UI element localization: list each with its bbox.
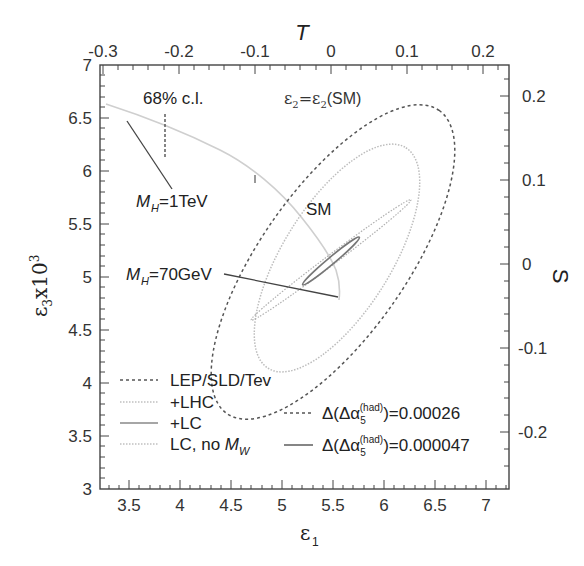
y-tick-labels: 3 3.5 4 4.5 5 5.5 6 6.5 7	[68, 56, 92, 499]
top-tick-label: -0.3	[88, 42, 117, 61]
legend-label: +LHC	[170, 393, 214, 412]
lhc-ellipse	[222, 119, 451, 397]
eps2-annotation: ε2=ε2(SM)	[284, 89, 361, 110]
svg-text:H: H	[151, 202, 159, 214]
x-tick-label: 3.5	[117, 496, 141, 515]
legend-label: Δ(Δα5(had))=0.000047	[322, 434, 470, 458]
svg-text:ε3x103: ε3x103	[28, 255, 55, 317]
right-tick-label: 0.1	[522, 171, 546, 190]
right-tick-labels: 0.2 0.1 0 -0.1 -0.2	[518, 87, 547, 442]
x-tick-labels: 3.5 4 4.5 5 5.5 6 6.5 7	[117, 496, 491, 515]
svg-text:1: 1	[312, 535, 319, 549]
top-tick-label: 0.2	[471, 42, 495, 61]
legend-alpha: Δ(Δα5(had))=0.00026 Δ(Δα5(had))=0.000047	[284, 402, 470, 458]
sm-annotation: SM	[306, 200, 332, 219]
y-tick-label: 5.5	[68, 215, 92, 234]
y-tick-label: 3.5	[68, 427, 92, 446]
svg-text:=70GeV: =70GeV	[149, 265, 213, 284]
top-tick-label: 0.1	[395, 42, 419, 61]
x-axis-label: ε 1	[300, 521, 319, 549]
top-tick-labels: -0.3 -0.2 -0.1 0 0.1 0.2	[88, 42, 494, 61]
x-tick-label: 6.5	[423, 496, 447, 515]
y-tick-label: 5	[83, 268, 92, 287]
x-tick-label: 4.5	[219, 496, 243, 515]
y-tick-label: 3	[83, 480, 92, 499]
chart-canvas: 3.5 4 4.5 5 5.5 6 6.5 7 3 3.5 4 4.5 5 5.…	[0, 0, 584, 566]
x-tick-label: 5.5	[321, 496, 345, 515]
mh-1tev-annotation: M H =1TeV	[136, 192, 208, 214]
legend-label: LC, no MW	[170, 435, 251, 457]
svg-text:=1TeV: =1TeV	[159, 192, 208, 211]
svg-text:H: H	[141, 275, 149, 287]
mh-70gev-line	[224, 274, 338, 297]
y-tick-label: 4	[83, 374, 92, 393]
x-tick-label: 4	[175, 496, 184, 515]
right-tick-label: 0.2	[522, 87, 546, 106]
right-tick-label: -0.2	[518, 423, 547, 442]
x-tick-label: 6	[379, 496, 388, 515]
top-tick-label: -0.1	[240, 42, 269, 61]
x-tick-label: 7	[481, 496, 490, 515]
legend-label: LEP/SLD/Tev	[170, 371, 272, 390]
top-axis-ticks	[103, 65, 498, 74]
top-tick-label: 0	[326, 42, 335, 61]
legend-label: Δ(Δα5(had))=0.00026	[322, 402, 460, 426]
top-axis-label: T	[295, 20, 310, 45]
x-axis-ticks	[109, 480, 506, 489]
y-axis-ticks	[100, 75, 109, 478]
y-tick-label: 4.5	[68, 321, 92, 340]
legend-label: +LC	[170, 414, 202, 433]
legend: LEP/SLD/Tev +LHC +LC LC, no MW	[120, 371, 272, 457]
mh-70gev-annotation: M H =70GeV	[126, 265, 213, 287]
y-tick-label: 6.5	[68, 109, 92, 128]
y-tick-label: 6	[83, 162, 92, 181]
svg-text:ε: ε	[300, 521, 310, 545]
right-axis-ticks	[500, 79, 509, 466]
right-tick-label: 0	[522, 255, 531, 274]
y-axis-label: ε3x103	[28, 255, 55, 317]
top-tick-label: -0.2	[164, 42, 193, 61]
svg-text:M: M	[126, 265, 141, 284]
x-tick-label: 5	[277, 496, 286, 515]
right-axis-label: S	[548, 269, 573, 284]
right-tick-label: -0.1	[518, 339, 547, 358]
svg-text:M: M	[136, 192, 151, 211]
cl-annotation: 68% c.l.	[143, 89, 203, 108]
